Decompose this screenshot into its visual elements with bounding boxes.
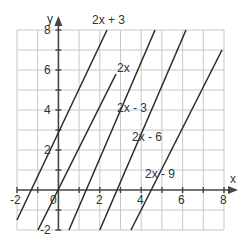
label-2x: 2x — [117, 61, 130, 75]
label-2x-minus-6: 2x - 6 — [132, 130, 162, 144]
svg-text:2: 2 — [96, 193, 103, 207]
x-axis-label: x — [230, 172, 236, 186]
svg-text:0: 0 — [50, 193, 57, 207]
svg-text:4: 4 — [137, 193, 144, 207]
label-2x-minus-9: 2x - 9 — [145, 167, 175, 181]
svg-text:8: 8 — [220, 193, 227, 207]
svg-text:-2: -2 — [40, 223, 51, 237]
label-2x-minus-3: 2x - 3 — [117, 101, 147, 115]
x-axis-arrow-icon — [228, 186, 238, 194]
chart: -2 0 2 4 6 8 8 6 4 2 -2 x y 2x + 3 2x 2x… — [0, 0, 248, 248]
line-2x-plus-3 — [17, 30, 107, 220]
grid — [17, 30, 224, 230]
svg-text:6: 6 — [44, 63, 51, 77]
svg-text:6: 6 — [178, 193, 185, 207]
svg-text:4: 4 — [44, 103, 51, 117]
svg-text:-2: -2 — [10, 193, 21, 207]
svg-text:2: 2 — [44, 143, 51, 157]
y-axis-arrow-icon — [54, 16, 62, 26]
y-axis-label: y — [47, 12, 53, 26]
label-2x-plus-3: 2x + 3 — [92, 13, 125, 27]
